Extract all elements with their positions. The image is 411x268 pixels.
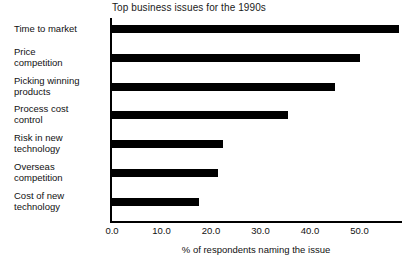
bar <box>112 25 399 33</box>
x-axis-line <box>110 221 402 223</box>
bar <box>112 169 218 177</box>
category-label: Cost of new technology <box>14 190 108 212</box>
bar <box>112 83 335 91</box>
category-label: Price competition <box>14 46 108 68</box>
x-tick-label: 0.0 <box>105 225 118 236</box>
category-label: Process cost control <box>14 103 108 125</box>
x-tick-label: 50.0 <box>350 225 369 236</box>
bar <box>112 111 288 119</box>
bar <box>112 198 199 206</box>
chart-title: Top business issues for the 1990s <box>112 2 266 13</box>
plot-area <box>110 18 401 221</box>
x-tick-label: 30.0 <box>251 225 270 236</box>
x-axis-title: % of respondents naming the issue <box>110 244 402 255</box>
category-label: Picking winning products <box>14 75 108 97</box>
category-label: Time to market <box>14 23 108 34</box>
category-label: Risk in new technology <box>14 132 108 154</box>
bar <box>112 54 360 62</box>
bar <box>112 140 223 148</box>
x-tick-label: 40.0 <box>301 225 320 236</box>
bar-chart: Top business issues for the 1990s Time t… <box>0 0 411 268</box>
x-tick-label: 20.0 <box>202 225 221 236</box>
x-tick-label: 10.0 <box>152 225 171 236</box>
category-label: Overseas competition <box>14 161 108 183</box>
